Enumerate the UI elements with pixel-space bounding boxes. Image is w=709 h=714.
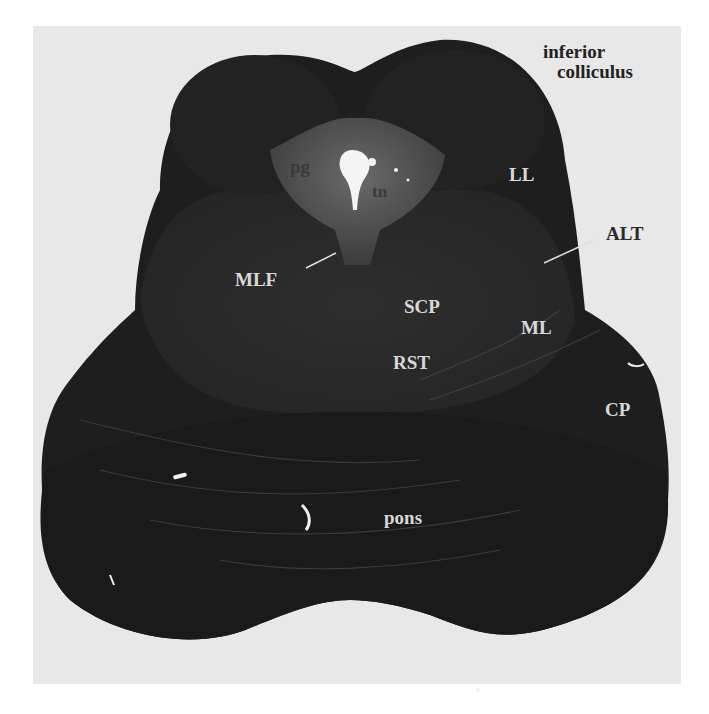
label-mlf: MLF: [235, 270, 277, 289]
label-ml: ML: [521, 318, 552, 337]
label-cp: CP: [605, 400, 630, 419]
label-pg: pg: [290, 157, 310, 176]
label-tn: tn: [372, 183, 387, 200]
label-alt: ALT: [606, 224, 643, 243]
label-rst: RST: [393, 353, 430, 372]
region-title-line2: colliculus: [543, 62, 633, 82]
label-pons: pons: [384, 508, 422, 527]
region-title-inferior-colliculus: inferior colliculus: [543, 42, 633, 82]
region-title-line1: inferior: [543, 42, 633, 62]
label-ll: LL: [509, 165, 534, 184]
brainstem-section-figure: inferior colliculus pg tn LL ALT MLF SCP…: [0, 0, 709, 714]
basilar-pons-region: [42, 412, 668, 640]
label-scp: SCP: [404, 297, 440, 316]
brainstem-cross-section-image: [0, 0, 709, 714]
